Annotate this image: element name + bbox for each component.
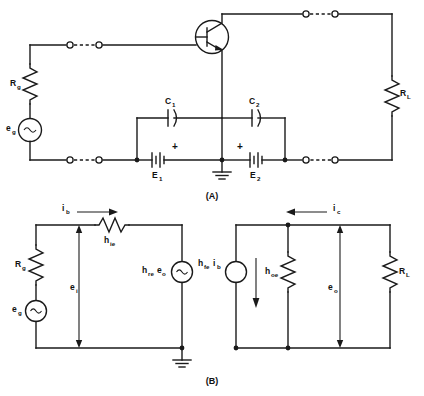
rl-a-subtext: L	[407, 93, 411, 100]
label-rl-b: R L	[399, 266, 410, 278]
current-source-hfe-ib	[226, 262, 247, 283]
eg-b-subtext: g	[18, 309, 22, 316]
rl-b-text: R	[399, 266, 405, 276]
rg-b-zigzag	[29, 245, 43, 285]
resistor-hoe	[281, 252, 295, 292]
label-ic: i c	[333, 203, 341, 215]
eg-a-text: e	[6, 123, 11, 133]
ac-source-eg-a	[19, 119, 42, 142]
c1-text: C	[165, 96, 171, 106]
terminal-a-outret-left[interactable]	[303, 157, 309, 163]
c1-subtext: 1	[172, 101, 176, 108]
hfe-subtext: fe	[204, 263, 210, 270]
e2-text: E	[250, 170, 256, 180]
label-rg-a: R g	[10, 78, 21, 90]
label-hfe-ib: h fe i b	[198, 258, 221, 270]
rg-zigzag	[23, 64, 37, 104]
ic-subtext: c	[337, 208, 341, 215]
label-c1: C 1	[165, 96, 176, 108]
rl-b-subtext: L	[406, 271, 410, 278]
ei-arrow-down	[76, 340, 82, 348]
hie-text: h	[104, 235, 109, 245]
hfe-ib-i-text: i	[213, 258, 215, 268]
label-hre-eo: h re e o	[142, 265, 166, 277]
resistor-hie	[95, 218, 129, 232]
eo-text: e	[328, 282, 333, 292]
polarity-plus-e1: +	[172, 141, 178, 152]
e1-subtext: 1	[159, 175, 163, 182]
battery-e1	[152, 153, 164, 167]
junction-a-left	[135, 158, 140, 163]
ib-text: i	[62, 203, 64, 213]
junction-b-ground	[180, 346, 185, 351]
terminal-a-out-left[interactable]	[303, 11, 309, 17]
transistor-emitter-lead	[207, 42, 222, 160]
rg-b-text: R	[15, 259, 21, 269]
label-ib: i b	[62, 203, 70, 215]
hre-subtext: re	[148, 270, 154, 277]
resistor-rl-b	[383, 252, 397, 292]
ib-subtext: b	[66, 208, 70, 215]
label-e2: E 2	[250, 170, 261, 182]
eo-subtext: o	[334, 287, 338, 294]
ground-symbol-a	[213, 160, 231, 179]
hfe-ib-circle	[226, 262, 247, 283]
junction-b-bot-csrc	[234, 346, 239, 351]
hie-subtext: ie	[110, 240, 116, 247]
eo-arrow-down	[337, 340, 343, 348]
csrc-arrow-head	[253, 298, 260, 308]
hre-eo-e-subtext: o	[162, 270, 166, 277]
caption-a: (A)	[206, 191, 219, 201]
current-arrow-ic	[286, 209, 327, 216]
label-c2: C 2	[249, 96, 260, 108]
label-ei: e i	[70, 282, 78, 294]
hoe-text: h	[265, 266, 270, 276]
ei-arrow-up	[76, 225, 82, 233]
battery-e2	[250, 153, 262, 167]
junction-b-bot-hoe	[286, 346, 291, 351]
ac-source-hre-eo	[172, 262, 193, 283]
npn-transistor-q1	[196, 14, 229, 160]
ic-text: i	[333, 203, 335, 213]
rg-a-subtext: g	[17, 83, 21, 90]
e1-text: E	[152, 170, 158, 180]
hie-zigzag	[95, 218, 129, 232]
current-arrow-ib	[77, 209, 118, 216]
hfe-text: h	[198, 258, 203, 268]
hre-text: h	[142, 265, 147, 275]
hoe-subtext: oe	[271, 271, 279, 278]
hoe-zigzag	[281, 252, 295, 292]
terminal-a-inret-right[interactable]	[96, 157, 102, 163]
ib-arrow-head	[109, 209, 118, 216]
ac-source-eg-b	[26, 301, 47, 322]
terminal-a-outret-right[interactable]	[332, 157, 338, 163]
label-rg-b: R g	[15, 259, 26, 271]
rg-b-subtext: g	[22, 264, 26, 271]
schematic-canvas: R g e g C 1 C 2 E 1 E 2 R L + + (A)	[0, 0, 424, 396]
terminal-a-out-right[interactable]	[332, 11, 338, 17]
circuit-b: i b i c h ie R g e g e i h re e o	[12, 203, 410, 386]
junction-a-right	[283, 158, 288, 163]
resistor-rg-b	[29, 245, 43, 285]
current-source-direction-arrow	[253, 258, 260, 308]
label-eo: e o	[328, 282, 338, 294]
eg-b-text: e	[12, 304, 17, 314]
caption-b: (B)	[206, 376, 219, 386]
terminal-a-inret-left[interactable]	[67, 157, 73, 163]
label-hoe: h oe	[265, 266, 279, 278]
terminal-a-in-right[interactable]	[96, 42, 102, 48]
hfe-ib-i-subtext: b	[217, 263, 221, 270]
c2-subtext: 2	[256, 101, 260, 108]
ground-symbol-b	[173, 348, 191, 367]
eg-a-subtext: g	[12, 128, 16, 135]
ic-arrow-head	[286, 209, 295, 216]
terminal-a-in-left[interactable]	[67, 42, 73, 48]
label-hie: h ie	[104, 235, 116, 247]
circuit-a: R g e g C 1 C 2 E 1 E 2 R L + + (A)	[6, 11, 411, 201]
rl-a-text: R	[400, 88, 406, 98]
junction-b-top-hoe	[286, 223, 291, 228]
ei-text: e	[70, 282, 75, 292]
polarity-plus-e2: +	[237, 141, 243, 152]
label-rl-a: R L	[400, 88, 411, 100]
label-eg-a: e g	[6, 123, 16, 135]
